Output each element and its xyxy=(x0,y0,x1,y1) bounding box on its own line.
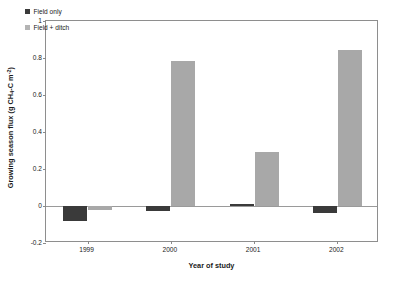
bar-2001-series-0 xyxy=(230,204,254,206)
y-axis-title-lead: Growing season flux (g CH xyxy=(7,94,16,189)
bar-2002-series-1 xyxy=(338,50,362,206)
y-tick-mark xyxy=(43,95,46,96)
y-axis-title-text: Growing season flux (g CH4-C m-2) xyxy=(6,67,15,188)
y-axis-title-subscript: 4 xyxy=(10,91,16,94)
x-tick-mark xyxy=(337,241,338,244)
x-tick-mark xyxy=(88,241,89,244)
y-axis-title: Growing season flux (g CH4-C m-2) xyxy=(0,0,22,255)
legend-swatch-light-icon xyxy=(25,25,30,30)
y-tick-mark xyxy=(43,132,46,133)
y-tick-label: 0.4 xyxy=(33,128,42,135)
plot-area xyxy=(45,20,378,242)
x-tick-label: 1999 xyxy=(79,246,94,253)
x-tick-mark xyxy=(254,241,255,244)
legend-swatch-dark-icon xyxy=(25,9,30,14)
x-tick-mark xyxy=(171,241,172,244)
legend-item-0: Field only xyxy=(25,8,69,15)
y-tick-mark xyxy=(43,169,46,170)
y-tick-label: 0.2 xyxy=(33,165,42,172)
legend-label: Field + ditch xyxy=(34,24,70,31)
bar-2002-series-0 xyxy=(313,206,337,213)
bar-2000-series-0 xyxy=(146,206,170,211)
y-tick-label: 0 xyxy=(38,202,42,209)
legend-item-1: Field + ditch xyxy=(25,24,69,31)
y-tick-mark xyxy=(43,243,46,244)
bar-chart-figure: Growing season flux (g CH4-C m-2) -0.200… xyxy=(0,0,400,283)
x-axis-title: Year of study xyxy=(45,261,378,270)
y-tick-label: 0.6 xyxy=(33,91,42,98)
y-tick-mark xyxy=(43,206,46,207)
bar-1999-series-0 xyxy=(63,206,87,221)
y-axis-tick-labels: -0.200.20.40.60.81 xyxy=(20,0,42,283)
x-tick-label: 2000 xyxy=(163,246,178,253)
y-tick-label: -0.2 xyxy=(31,239,42,246)
chart-legend: Field onlyField + ditch xyxy=(25,8,69,40)
y-axis-title-tail: ) xyxy=(7,67,16,69)
y-tick-label: 0.8 xyxy=(33,54,42,61)
x-axis-tick-labels: 1999200020012002 xyxy=(45,246,378,258)
x-tick-label: 2002 xyxy=(329,246,344,253)
y-tick-mark xyxy=(43,58,46,59)
x-tick-label: 2001 xyxy=(246,246,261,253)
y-axis-title-mid: -C m xyxy=(7,74,16,90)
legend-label: Field only xyxy=(34,8,62,15)
bar-1999-series-1 xyxy=(88,206,112,210)
bar-2001-series-1 xyxy=(255,152,279,206)
y-axis-title-superscript: -2 xyxy=(6,69,12,74)
bar-2000-series-1 xyxy=(171,61,195,206)
